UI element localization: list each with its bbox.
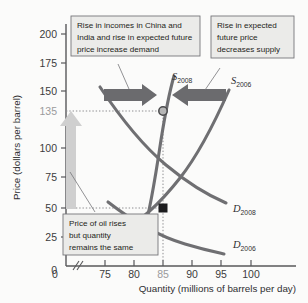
x-tick-label-85: 85 — [157, 268, 169, 280]
x-tick-label-80: 80 — [128, 268, 140, 280]
y-tick-label-25: 25 — [45, 231, 57, 243]
x-tick-label-100: 100 — [242, 268, 260, 280]
x-tick-label-75: 75 — [99, 268, 111, 280]
supply-demand-chart: 200 175 150 135 100 75 50 25 0 Price (do… — [0, 0, 308, 303]
supply-shift-note-line-3: decreases supply — [217, 45, 281, 54]
x-tick-label-0: 0 — [52, 268, 58, 280]
chart-figure: 200 175 150 135 100 75 50 25 0 Price (do… — [0, 0, 308, 303]
x-tick-label-90: 90 — [186, 268, 198, 280]
price-rise-note-line-1: Price of oil rises — [69, 219, 126, 228]
y-tick-label-100: 100 — [39, 142, 57, 154]
demand-shift-note-line-1: Rise in incomes in China and — [77, 21, 182, 30]
demand-shift-note: Rise in incomes in China and India and r… — [71, 16, 200, 56]
supply-shift-note-line-2: future price — [217, 33, 258, 42]
demand-shift-note-line-2: India and rise in expected future — [77, 33, 193, 42]
price-rise-note: Price of oil rises but quantity remains … — [63, 214, 158, 255]
y-tick-label-175: 175 — [39, 57, 57, 69]
supply-shift-note-line-1: Rise in expected — [217, 21, 277, 30]
demand-shift-note-line-3: price increase demand — [77, 45, 159, 54]
price-rise-note-line-2: but quantity — [69, 231, 112, 240]
y-axis-title: Price (dollars per barrel) — [11, 95, 22, 200]
supply-shift-note: Rise in expected future price decreases … — [211, 16, 294, 58]
y-tick-label-135: 135 — [39, 105, 57, 117]
y-tick-label-50: 50 — [45, 202, 57, 214]
equilibrium-point-2008 — [159, 107, 167, 115]
y-tick-label-200: 200 — [39, 28, 57, 40]
x-axis-title: Quantity (millions of barrels per day) — [139, 283, 296, 294]
x-tick-label-95: 95 — [215, 268, 227, 280]
price-rise-note-line-3: remains the same — [69, 243, 134, 252]
y-tick-label-75: 75 — [45, 171, 57, 183]
y-tick-label-150: 150 — [39, 85, 57, 97]
equilibrium-point-2006 — [159, 204, 168, 213]
